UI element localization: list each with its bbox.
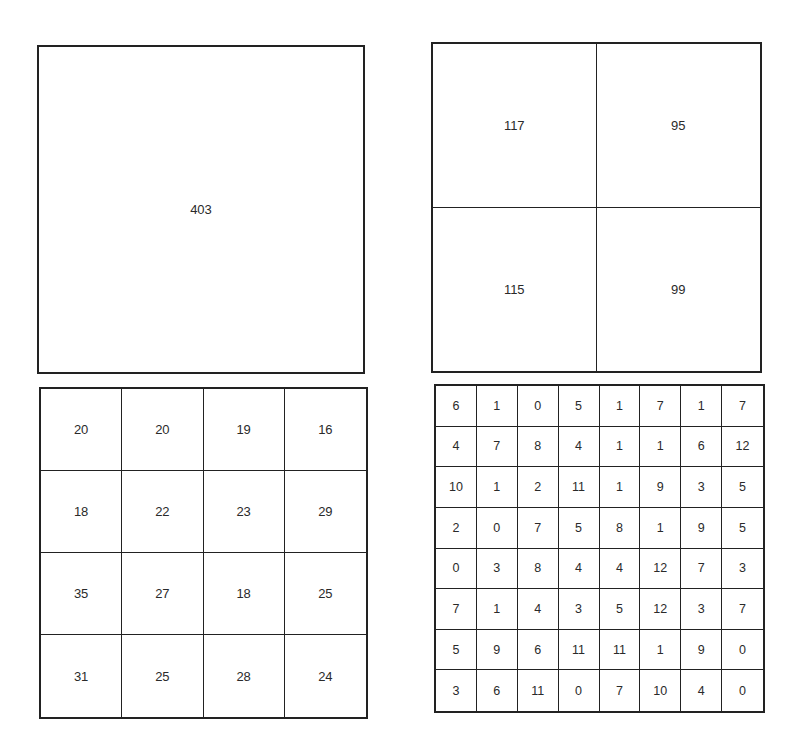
- grid-cell: 25: [285, 553, 366, 635]
- grid-cell: 1: [477, 589, 518, 630]
- grid-cell: 1: [600, 467, 641, 508]
- grid-cell: 18: [204, 553, 285, 635]
- grid-cell: 29: [285, 471, 366, 553]
- grid-cell: 5: [436, 630, 477, 671]
- grid-cell: 4: [559, 427, 600, 468]
- grid-cell: 1: [640, 427, 681, 468]
- grid-cell: 5: [559, 386, 600, 427]
- grid-cell: 10: [436, 467, 477, 508]
- grid-cell: 0: [518, 386, 559, 427]
- grid-cell: 24: [285, 635, 366, 717]
- grid-cell: 8: [518, 427, 559, 468]
- grid-8x8: 6105171747841161210121119352075819503844…: [434, 384, 765, 713]
- grid-cell: 117: [433, 44, 597, 208]
- grid-cell: 31: [41, 635, 122, 717]
- grid-cell: 6: [518, 630, 559, 671]
- grid-cell: 35: [41, 553, 122, 635]
- grid-cell: 3: [681, 467, 722, 508]
- grid-cell: 1: [640, 508, 681, 549]
- grid-cell: 1: [600, 386, 641, 427]
- grid-cell: 22: [122, 471, 203, 553]
- grid-cell: 95: [597, 44, 761, 208]
- grid-cell: 7: [436, 589, 477, 630]
- grid-cell: 9: [477, 630, 518, 671]
- grid-cell: 10: [640, 670, 681, 711]
- grid-cell: 403: [39, 47, 363, 372]
- grid-cell: 0: [477, 508, 518, 549]
- grid-cell: 7: [722, 386, 763, 427]
- grid-cell: 3: [722, 549, 763, 590]
- grid-cell: 99: [597, 208, 761, 372]
- grid-cell: 4: [681, 670, 722, 711]
- grid-cell: 20: [41, 389, 122, 471]
- grid-cell: 5: [559, 508, 600, 549]
- grid-cell: 27: [122, 553, 203, 635]
- grid-cell: 1: [681, 386, 722, 427]
- grid-cell: 1: [477, 467, 518, 508]
- grid-cell: 1: [640, 630, 681, 671]
- grid-cell: 9: [640, 467, 681, 508]
- grid-cell: 8: [518, 549, 559, 590]
- grid-cell: 3: [436, 670, 477, 711]
- grid-cell: 11: [600, 630, 641, 671]
- grid-cell: 9: [681, 508, 722, 549]
- grid-cell: 12: [722, 427, 763, 468]
- grid-1x1: 403: [37, 45, 365, 374]
- grid-cell: 8: [600, 508, 641, 549]
- grid-cell: 5: [600, 589, 641, 630]
- grid-cell: 20: [122, 389, 203, 471]
- grid-cell: 25: [122, 635, 203, 717]
- grid-cell: 3: [681, 589, 722, 630]
- grid-cell: 9: [681, 630, 722, 671]
- grid-cell: 11: [518, 670, 559, 711]
- grid-cell: 16: [285, 389, 366, 471]
- grid-cell: 4: [436, 427, 477, 468]
- grid-cell: 7: [600, 670, 641, 711]
- grid-cell: 11: [559, 467, 600, 508]
- grid-cell: 1: [600, 427, 641, 468]
- grid-cell: 7: [681, 549, 722, 590]
- grid-cell: 5: [722, 467, 763, 508]
- grid-cell: 3: [559, 589, 600, 630]
- grid-cell: 7: [477, 427, 518, 468]
- grid-cell: 12: [640, 549, 681, 590]
- grid-cell: 1: [477, 386, 518, 427]
- grid-cell: 115: [433, 208, 597, 372]
- grid-cell: 0: [722, 670, 763, 711]
- grid-cell: 0: [436, 549, 477, 590]
- grid-cell: 11: [559, 630, 600, 671]
- grid-4x4: 20201916182223293527182531252824: [39, 387, 368, 719]
- grid-cell: 0: [559, 670, 600, 711]
- grid-cell: 2: [436, 508, 477, 549]
- grid-cell: 7: [640, 386, 681, 427]
- grid-cell: 2: [518, 467, 559, 508]
- grid-cell: 19: [204, 389, 285, 471]
- grid-cell: 28: [204, 635, 285, 717]
- grid-cell: 4: [600, 549, 641, 590]
- grid-cell: 3: [477, 549, 518, 590]
- grid-cell: 6: [436, 386, 477, 427]
- grid-cell: 18: [41, 471, 122, 553]
- grid-cell: 5: [722, 508, 763, 549]
- grid-cell: 0: [722, 630, 763, 671]
- grid-2x2: 1179511599: [431, 42, 762, 373]
- grid-cell: 6: [477, 670, 518, 711]
- grid-cell: 12: [640, 589, 681, 630]
- grid-cell: 6: [681, 427, 722, 468]
- grid-cell: 23: [204, 471, 285, 553]
- grid-cell: 7: [518, 508, 559, 549]
- grid-cell: 4: [559, 549, 600, 590]
- grid-cell: 4: [518, 589, 559, 630]
- grid-cell: 7: [722, 589, 763, 630]
